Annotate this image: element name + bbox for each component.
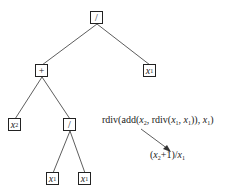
expr-text: +1)/ [161,149,178,160]
node-subscript: 1 [53,176,56,182]
node-x1-leaf-a: x1 [46,172,59,185]
edge-root-x1 [97,24,150,65]
expr-text: ) [210,114,213,125]
edge-plus-div [42,77,70,119]
prefix-expression: rdiv(add(x2, rdiv(x1, x1)), x1) [102,114,214,126]
edge-plus-x2 [15,77,42,119]
node-x1-leaf-b: x1 [78,172,91,185]
expr-text: )), [191,114,203,125]
expr-text: rdiv(add( [102,114,139,125]
node-divide-lower: / [63,118,76,131]
node-label: / [95,13,98,23]
node-subscript: 2 [15,122,18,128]
tree-edges [0,0,225,194]
edge-div-x1b [70,131,85,173]
simplify-arrow [141,129,168,149]
node-plus: + [35,64,48,77]
node-subscript: 1 [85,176,88,182]
node-root-divide: / [90,11,103,24]
simplified-expression: (x2+1)/x1 [150,149,185,161]
node-subscript: 1 [150,68,153,74]
expr-sub: 1 [182,155,185,161]
node-label: / [68,120,71,130]
node-x1-right: x1 [143,64,156,77]
node-label: + [39,66,45,76]
edge-root-plus [42,24,97,65]
edge-div-x1a [53,131,70,173]
expr-text: , rdiv( [147,114,171,125]
node-x2: x2 [8,118,21,131]
